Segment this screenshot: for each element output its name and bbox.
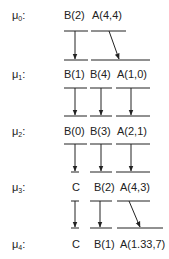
arrow-icon: [129, 201, 140, 227]
transition-mu0-mu1: [64, 31, 150, 60]
arrow-icon: [109, 31, 119, 59]
transition-diagram: [0, 0, 169, 259]
transition-mu3-mu4: [71, 201, 163, 228]
transition-mu1-mu2: [64, 88, 150, 116]
transition-mu2-mu3: [64, 144, 150, 172]
